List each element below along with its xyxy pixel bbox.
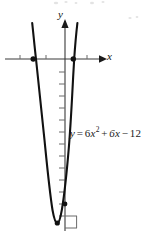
- root-point-left: [31, 56, 36, 61]
- y-axis-label: y: [58, 8, 63, 20]
- y-intercept-point: [63, 202, 68, 207]
- x-axis-arrow-icon: [99, 55, 107, 63]
- vertex-point: [55, 220, 60, 225]
- equation-plus: +: [100, 127, 110, 139]
- scan-artifacts: [54, 1, 139, 19]
- x-axis-label: x: [107, 50, 112, 62]
- parabola-curve: [32, 23, 77, 223]
- parabola-figure: [0, 0, 166, 234]
- equation-term2: 6x: [109, 127, 120, 139]
- equation-equals: =: [75, 127, 85, 139]
- root-point-right: [71, 56, 76, 61]
- equation-label: y=6x2+6x−12: [70, 127, 141, 139]
- equation-term3: 12: [130, 127, 142, 139]
- y-axis-arrow-icon: [61, 19, 68, 28]
- equation-minus: −: [120, 127, 130, 139]
